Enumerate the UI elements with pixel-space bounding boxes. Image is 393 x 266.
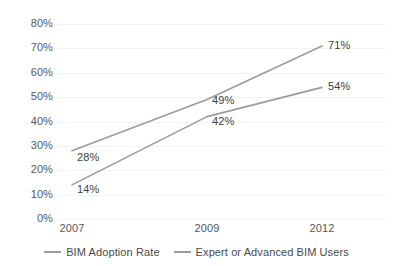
y-tick-label: 20% [11, 164, 53, 175]
legend-line-icon [44, 251, 61, 253]
y-tick-label: 50% [11, 91, 53, 102]
data-label-expert-2009: 42% [212, 116, 234, 127]
y-tick-label: 30% [11, 140, 53, 151]
line-chart: 80% 70% 60% 50% 40% 30% 20% 10% 0% 28% 4… [0, 0, 393, 266]
legend-item-bim-adoption-rate[interactable]: BIM Adoption Rate [44, 246, 159, 259]
data-label-adoption-2012: 71% [328, 40, 350, 51]
legend-label: BIM Adoption Rate [66, 246, 159, 259]
x-tick-label: 2007 [60, 222, 85, 235]
x-axis: 2007 2009 2012 [57, 222, 387, 238]
gridline [57, 219, 387, 220]
x-tick-label: 2012 [310, 222, 335, 235]
y-tick-label: 60% [11, 67, 53, 78]
data-label-adoption-2009: 49% [212, 95, 234, 106]
y-tick-label: 0% [11, 213, 53, 224]
data-label-expert-2012: 54% [328, 81, 350, 92]
chart-legend: BIM Adoption Rate Expert or Advanced BIM… [0, 242, 393, 262]
series-line-bim-adoption-rate [72, 46, 322, 151]
x-tick-label: 2009 [195, 222, 220, 235]
y-tick-label: 10% [11, 189, 53, 200]
y-tick-label: 40% [11, 116, 53, 127]
legend-item-expert-advanced-bim-users[interactable]: Expert or Advanced BIM Users [174, 246, 349, 259]
legend-label: Expert or Advanced BIM Users [196, 246, 349, 259]
plot-area: 28% 49% 71% 14% 42% 54% [57, 24, 387, 219]
y-tick-label: 70% [11, 42, 53, 53]
legend-line-icon [174, 251, 191, 253]
data-label-adoption-2007: 28% [77, 152, 99, 163]
y-tick-label: 80% [11, 18, 53, 29]
y-axis: 80% 70% 60% 50% 40% 30% 20% 10% 0% [8, 24, 53, 219]
data-label-expert-2007: 14% [77, 184, 99, 195]
